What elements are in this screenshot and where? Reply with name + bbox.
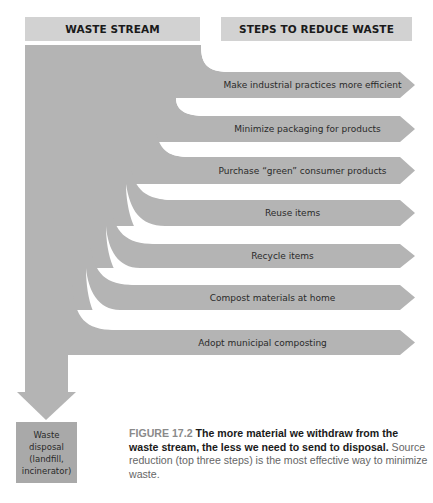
step-label-3: Purchase “green” consumer products: [190, 158, 415, 184]
waste-disposal-box: Waste disposal (landfill, incinerator): [16, 422, 77, 483]
step-label-1: Make industrial practices more efficient: [215, 72, 410, 98]
disposal-line: (landfill,: [22, 453, 71, 465]
down-arrow-icon: [17, 392, 76, 420]
top-gap: [201, 45, 433, 72]
step-label-5: Recycle items: [155, 243, 410, 269]
step-label-2: Minimize packaging for products: [205, 116, 410, 142]
disposal-line: incinerator): [22, 465, 71, 477]
step-label-4: Reuse items: [175, 200, 410, 226]
disposal-line: disposal: [22, 441, 71, 453]
step-label-6: Compost materials at home: [135, 285, 410, 311]
step-label-7: Adopt municipal composting: [115, 330, 410, 356]
figure-number: FIGURE 17.2: [129, 427, 193, 439]
figure-caption: FIGURE 17.2 The more material we withdra…: [129, 427, 429, 481]
disposal-line: Waste: [22, 429, 71, 441]
